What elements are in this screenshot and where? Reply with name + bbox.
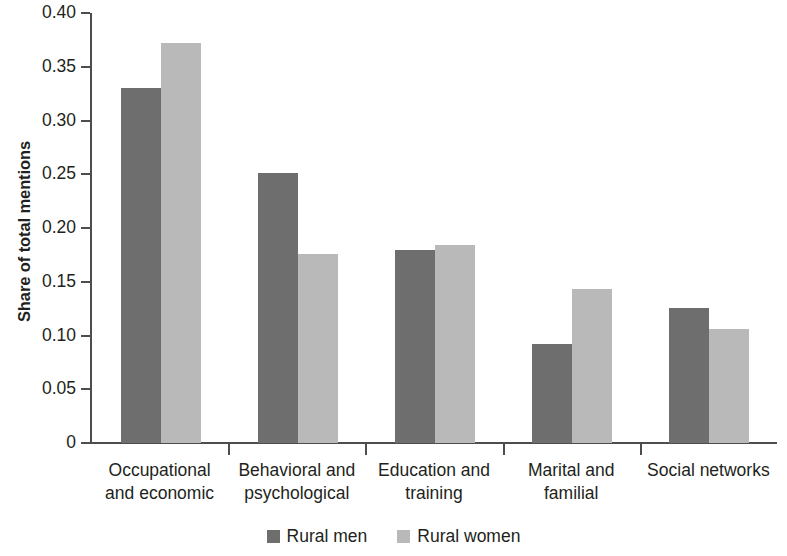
y-axis-tick-mark: [81, 12, 90, 14]
legend-swatch-icon: [267, 530, 280, 543]
bar-rural-men: [669, 308, 709, 443]
y-axis-tick-label: 0.40: [10, 4, 76, 22]
y-axis-tick-label: 0.15: [10, 273, 76, 291]
y-axis-tick-label: 0.25: [10, 165, 76, 183]
x-axis-tick-mark: [503, 444, 505, 455]
y-axis-tick-labels: 00.050.100.150.200.250.300.350.40: [0, 0, 76, 556]
legend-label: Rural men: [287, 528, 368, 546]
x-axis-tick-mark: [228, 444, 230, 455]
y-axis-tick-label: 0.35: [10, 58, 76, 76]
bar-rural-men: [395, 250, 435, 444]
bar-chart: Share of total mentions 00.050.100.150.2…: [0, 0, 787, 556]
y-axis-tick-label: 0: [10, 434, 76, 452]
y-axis-tick-mark: [81, 388, 90, 390]
y-axis-tick-mark: [81, 173, 90, 175]
x-axis-tick-mark: [640, 444, 642, 455]
x-axis-category-label: Social networks: [623, 459, 787, 482]
chart-legend: Rural menRural women: [0, 528, 787, 546]
y-axis-tick-label: 0.10: [10, 327, 76, 345]
y-axis-tick-mark: [81, 335, 90, 337]
bar-rural-women: [435, 245, 475, 443]
bar-rural-women: [572, 289, 612, 443]
y-axis-tick-mark: [81, 227, 90, 229]
plot-area: [91, 13, 777, 443]
legend-entry-women: Rural women: [397, 528, 520, 546]
bar-rural-women: [709, 329, 749, 443]
y-axis-tick-mark: [81, 120, 90, 122]
legend-entry-men: Rural men: [267, 528, 368, 546]
legend-label: Rural women: [417, 528, 520, 546]
bar-rural-women: [298, 254, 338, 443]
bar-rural-men: [121, 88, 161, 443]
y-axis-tick-mark: [81, 66, 90, 68]
y-axis-tick-label: 0.20: [10, 219, 76, 237]
bar-rural-men: [532, 344, 572, 443]
bar-rural-women: [161, 43, 201, 443]
y-axis-tick-label: 0.05: [10, 380, 76, 398]
x-axis-tick-mark: [365, 444, 367, 455]
bar-rural-men: [258, 173, 298, 443]
legend-swatch-icon: [397, 530, 410, 543]
y-axis-tick-mark: [81, 281, 90, 283]
y-axis-tick-mark: [81, 442, 90, 444]
y-axis-tick-label: 0.30: [10, 112, 76, 130]
